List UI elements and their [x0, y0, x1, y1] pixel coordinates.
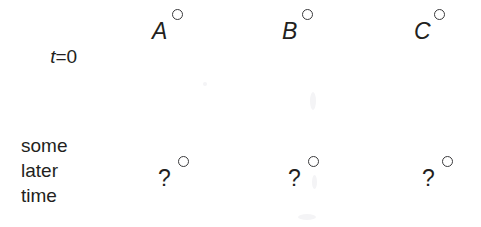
time-label-initial: t=0 — [29, 19, 77, 94]
time-label-line-2: later — [21, 158, 67, 183]
object-label-a: A — [152, 18, 167, 44]
open-circle-icon — [302, 9, 313, 20]
object-group-a: A — [152, 0, 212, 46]
time-label-line-3: time — [21, 183, 67, 208]
time-label-line-1: some — [21, 133, 67, 158]
object-label-a-later: ? — [158, 165, 171, 191]
scan-speckle — [203, 82, 207, 86]
open-circle-icon — [172, 9, 183, 20]
object-label-b-later: ? — [288, 165, 301, 191]
physics-diagram-canvas: t=0 A B C some later time ? ? ? — [0, 0, 481, 227]
scan-speckle — [310, 92, 316, 110]
object-group-b: B — [282, 0, 342, 46]
open-circle-icon — [434, 9, 445, 20]
time-value: =0 — [55, 46, 77, 67]
object-label-c: C — [414, 18, 431, 44]
scan-speckle — [298, 214, 316, 220]
object-group-c-later: ? — [422, 147, 481, 193]
time-label-later: some later time — [21, 133, 67, 208]
object-group-c: C — [414, 0, 474, 46]
object-label-c-later: ? — [422, 165, 435, 191]
object-group-a-later: ? — [158, 147, 218, 193]
open-circle-icon — [442, 156, 453, 167]
open-circle-icon — [178, 156, 189, 167]
object-label-b: B — [282, 18, 297, 44]
open-circle-icon — [308, 156, 319, 167]
object-group-b-later: ? — [288, 147, 348, 193]
